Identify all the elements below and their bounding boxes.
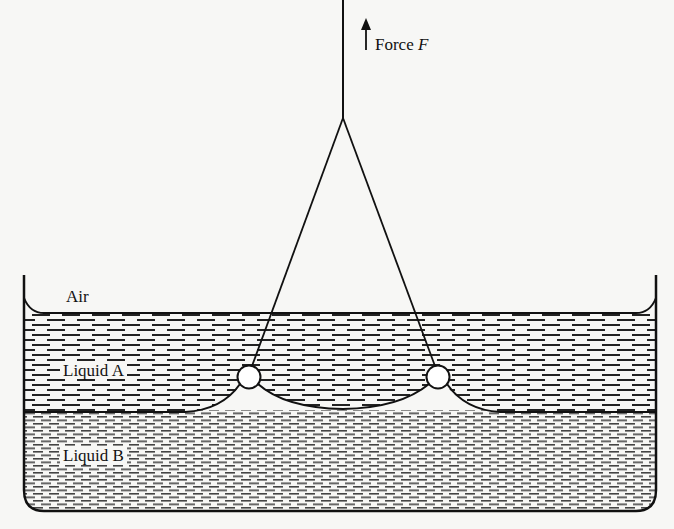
right-sphere (427, 366, 450, 389)
force-arrow-icon (361, 18, 371, 50)
air-label: Air (66, 288, 89, 305)
force-text: Force (375, 35, 414, 54)
force-symbol: F (418, 35, 428, 54)
left-sphere (238, 366, 261, 389)
liquid-b-label: Liquid B (60, 447, 127, 464)
liquid-a-label: Liquid A (60, 362, 127, 379)
liquid-a-surface (24, 298, 656, 313)
force-label: Force F (375, 36, 428, 53)
